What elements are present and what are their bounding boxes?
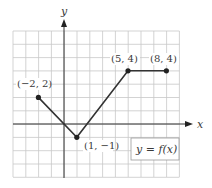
function-graph: x y (−2, 2) (1, −1) (5, 4) (8, 4) y = f(… (0, 0, 212, 188)
x-axis-label: x (197, 118, 204, 131)
point-8-4 (164, 68, 169, 73)
legend-label: y = f(x) (135, 143, 177, 156)
point-5-4 (125, 68, 130, 73)
point-label-1-neg1: (1, −1) (84, 140, 119, 151)
y-axis-arrow-icon (61, 19, 67, 27)
point-label-neg2-2: (−2, 2) (17, 78, 52, 89)
y-axis-label: y (60, 5, 68, 18)
point-1-neg1 (74, 135, 79, 140)
x-axis-arrow-icon (185, 121, 193, 127)
point-label-5-4: (5, 4) (111, 53, 138, 64)
point-label-8-4: (8, 4) (150, 53, 177, 64)
y-axis (61, 19, 67, 178)
point-neg2-2 (36, 95, 41, 100)
